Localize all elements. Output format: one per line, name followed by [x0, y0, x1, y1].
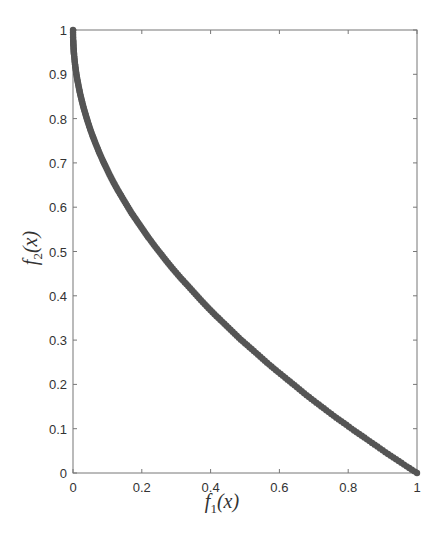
y-tick-label: 0.4: [49, 289, 67, 304]
x-tick-label: 0.6: [270, 480, 288, 495]
y-tick-label: 0: [60, 466, 67, 481]
plot-frame: [73, 30, 417, 473]
axis-ticks: 00.20.40.60.8100.10.20.30.40.50.60.70.80…: [49, 23, 421, 495]
y-tick-label: 0.6: [49, 200, 67, 215]
x-tick-label: 1: [413, 480, 420, 495]
y-tick-label: 0.3: [49, 333, 67, 348]
data-point: [414, 470, 420, 476]
y-tick-label: 1: [60, 23, 67, 38]
x-tick-label: 0.2: [133, 480, 151, 495]
y-tick-label: 0.2: [49, 377, 67, 392]
y-tick-label: 0.9: [49, 67, 67, 82]
y-axis-label: f2(x): [19, 231, 45, 266]
data-points: [70, 27, 420, 476]
y-tick-label: 0.8: [49, 112, 67, 127]
y-tick-label: 0.5: [49, 245, 67, 260]
x-tick-label: 0.8: [339, 480, 357, 495]
y-tick-label: 0.1: [49, 422, 67, 437]
pareto-front-chart: 00.20.40.60.8100.10.20.30.40.50.60.70.80…: [0, 0, 438, 536]
x-tick-label: 0: [69, 480, 76, 495]
y-tick-label: 0.7: [49, 156, 67, 171]
x-axis-label: f1(x): [205, 490, 240, 516]
